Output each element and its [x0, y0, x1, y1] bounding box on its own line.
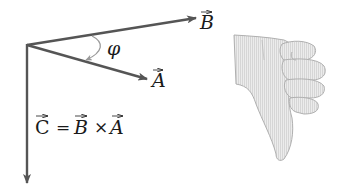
cross-product-equation: C = B × A [35, 116, 124, 138]
thumbs-down-hand-icon [234, 35, 325, 160]
angle-phi-label: φ [107, 37, 121, 59]
svg-text:A: A [150, 69, 166, 91]
vector-b-label: B [199, 11, 214, 33]
svg-text:C: C [35, 116, 50, 138]
svg-text:=: = [56, 117, 70, 137]
svg-text:×: × [94, 117, 108, 137]
svg-text:A: A [108, 116, 124, 138]
angle-arc [86, 36, 100, 60]
vector-a-arrow [27, 45, 147, 79]
svg-text:B: B [199, 11, 214, 33]
svg-text:B: B [73, 116, 88, 138]
cross-product-diagram: φ B A C = B × A [0, 0, 352, 194]
vector-a-label: A [150, 69, 166, 91]
